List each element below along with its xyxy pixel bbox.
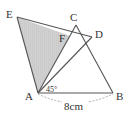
label-c: C xyxy=(70,11,77,23)
angle-label: 45° xyxy=(46,85,57,94)
label-b: B xyxy=(116,90,123,102)
label-f: F xyxy=(59,32,65,44)
geometry-figure: E C D F A B 45° 8cm xyxy=(0,0,133,121)
shaded-triangle-aef xyxy=(17,17,70,93)
length-label: 8cm xyxy=(64,100,83,112)
label-a: A xyxy=(25,90,33,102)
label-d: D xyxy=(95,28,103,40)
label-e: E xyxy=(6,8,13,20)
